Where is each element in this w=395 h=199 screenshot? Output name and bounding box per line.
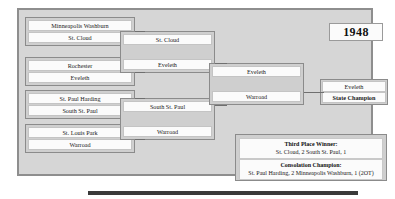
connector-r1m4-to-r2 (135, 139, 145, 140)
round1-match-2[interactable]: Rochester Eveleth (25, 57, 135, 86)
consolation-card: Consolation Champion: St. Paul Harding, … (239, 159, 383, 180)
round1-match-3-team-bottom[interactable]: South St. Paul (28, 105, 132, 116)
bottom-accent-bar (88, 191, 358, 195)
connector-r2m1-to-final (215, 63, 227, 64)
results-box: Third Place Winner: St. Cloud, 2 South S… (235, 134, 387, 181)
round1-match-2-team-bottom[interactable]: Eveleth (28, 72, 132, 83)
round2-match-2-team-top[interactable]: South St. Paul (123, 101, 212, 112)
round2-match-1-team-top[interactable]: St. Cloud (123, 34, 212, 45)
round3-final-team-bottom[interactable]: Warroad (212, 91, 301, 102)
state-champion-label: State Champion (322, 92, 386, 103)
round1-match-1[interactable]: Minneapolis Washburn St. Cloud (25, 17, 135, 46)
round1-match-4-team-bottom[interactable]: Warroad (28, 139, 132, 150)
round2-match-2[interactable]: South St. Paul Warroad (120, 98, 215, 140)
round1-match-3[interactable]: St. Paul Harding South St. Paul (25, 90, 135, 119)
round1-match-2-team-top[interactable]: Rochester (28, 60, 132, 71)
connector-r1m2-to-r2 (135, 72, 145, 73)
consolation-score: St. Paul Harding, 2 Minneapolis Washburn… (240, 169, 382, 177)
round1-match-1-team-bottom[interactable]: St. Cloud (28, 32, 132, 43)
third-place-title: Third Place Winner: (240, 140, 382, 148)
round1-match-4[interactable]: St. Louis Park Warroad (25, 124, 135, 153)
connector-final-to-champion (304, 92, 324, 93)
round1-match-3-team-top[interactable]: St. Paul Harding (28, 93, 132, 104)
state-champion-box[interactable]: Eveleth State Champion (320, 79, 388, 105)
state-champion-team[interactable]: Eveleth (322, 81, 386, 92)
third-place-card: Third Place Winner: St. Cloud, 2 South S… (239, 138, 383, 159)
round3-final-match[interactable]: Eveleth Warroad (209, 63, 304, 105)
bracket-page: 1948 Minneapolis Washburn St. Cloud Roch… (0, 0, 395, 199)
connector-r1m1-to-r2 (135, 31, 145, 32)
round2-match-1-team-bottom[interactable]: Eveleth (123, 59, 212, 70)
bracket-frame: 1948 Minneapolis Washburn St. Cloud Roch… (17, 8, 373, 176)
connector-r1m3-to-r2 (135, 98, 145, 99)
third-place-score: St. Cloud, 2 South St. Paul, 1 (240, 148, 382, 156)
round3-final-team-top[interactable]: Eveleth (212, 66, 301, 77)
round1-match-1-team-top[interactable]: Minneapolis Washburn (28, 20, 132, 31)
tournament-year: 1948 (329, 23, 383, 41)
round2-match-2-team-bottom[interactable]: Warroad (123, 126, 212, 137)
round2-match-1[interactable]: St. Cloud Eveleth (120, 31, 215, 73)
round1-match-4-team-top[interactable]: St. Louis Park (28, 127, 132, 138)
consolation-title: Consolation Champion: (240, 161, 382, 169)
connector-r2m2-to-final (215, 105, 227, 106)
